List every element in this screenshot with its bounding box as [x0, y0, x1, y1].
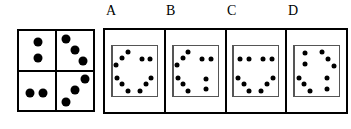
- pip-dot: [174, 62, 179, 67]
- pip-dot: [26, 88, 35, 97]
- reference-domino: [17, 29, 95, 112]
- option-b-horizontal-divider: [173, 96, 218, 97]
- option-b[interactable]: [166, 30, 227, 112]
- pip-dot: [186, 49, 191, 54]
- option-d-quadrant-top-right: [317, 46, 340, 71]
- option-label-a: A: [106, 4, 116, 18]
- pip-dot: [265, 82, 270, 87]
- option-c-quadrant-top-right: [256, 46, 279, 71]
- pip-dot: [125, 49, 130, 54]
- pip-dot: [148, 56, 153, 61]
- pip-dot: [261, 56, 266, 61]
- pip-dot: [241, 82, 246, 87]
- option-a-domino: [111, 45, 158, 97]
- pip-dot: [320, 49, 325, 54]
- pip-dot: [125, 88, 130, 93]
- option-b-quadrant-bottom-right: [195, 71, 218, 96]
- pip-dot: [238, 56, 243, 61]
- reference-quadrant-bottom-left: [19, 71, 56, 111]
- pip-dot: [33, 38, 42, 47]
- pip-dot: [269, 56, 274, 61]
- pip-dot: [331, 63, 336, 68]
- option-b-quadrant-top-left: [173, 46, 196, 71]
- option-c-quadrant-top-left: [233, 46, 256, 71]
- pip-dot: [139, 56, 144, 61]
- option-c-horizontal-divider: [233, 96, 278, 97]
- pip-dot: [175, 75, 180, 80]
- pip-dot: [120, 82, 125, 87]
- pip-dot: [302, 51, 307, 56]
- pip-dot: [325, 56, 330, 61]
- pip-dot: [149, 75, 154, 80]
- pip-dot: [143, 82, 148, 87]
- pip-dot: [114, 75, 119, 80]
- option-label-b: B: [166, 4, 175, 18]
- option-d-quadrant-bottom-left: [294, 71, 317, 96]
- reference-quadrant-top-right: [56, 31, 93, 71]
- pip-dot: [61, 34, 70, 43]
- option-d[interactable]: [287, 30, 346, 112]
- pip-dot: [204, 76, 209, 81]
- option-d-quadrant-bottom-right: [317, 71, 340, 96]
- pip-dot: [302, 61, 307, 66]
- option-c[interactable]: [227, 30, 288, 112]
- pip-dot: [39, 88, 48, 97]
- pip-dot: [33, 53, 42, 62]
- option-b-quadrant-bottom-left: [173, 71, 196, 96]
- reference-quadrant-bottom-right: [56, 71, 93, 111]
- pip-dot: [325, 76, 330, 81]
- option-c-domino: [232, 45, 279, 97]
- pip-dot: [61, 98, 70, 107]
- pip-dot: [180, 82, 185, 87]
- pip-dot: [208, 56, 213, 61]
- pip-dot: [137, 88, 142, 93]
- figure-canvas: A B C D: [0, 0, 351, 129]
- pip-dot: [259, 88, 264, 93]
- option-a-quadrant-top-left: [112, 46, 135, 71]
- pip-dot: [113, 62, 118, 67]
- option-a-quadrant-top-right: [134, 46, 157, 71]
- option-a-horizontal-divider: [112, 96, 157, 97]
- answer-options-frame: [103, 28, 348, 114]
- option-label-c: C: [227, 4, 236, 18]
- option-label-d: D: [288, 4, 298, 18]
- pip-dot: [297, 75, 302, 80]
- pip-dot: [79, 56, 88, 65]
- option-b-quadrant-top-right: [195, 46, 218, 71]
- pip-dot: [247, 88, 252, 93]
- pip-dot: [70, 45, 79, 54]
- pip-dot: [80, 75, 89, 84]
- option-a-quadrant-bottom-left: [112, 71, 135, 96]
- pip-dot: [180, 56, 185, 61]
- pip-dot: [200, 56, 205, 61]
- pip-dot: [302, 82, 307, 87]
- option-c-quadrant-bottom-right: [256, 71, 279, 96]
- option-b-domino: [172, 45, 219, 97]
- pip-dot: [246, 56, 251, 61]
- option-a[interactable]: [105, 30, 166, 112]
- option-c-quadrant-bottom-left: [233, 71, 256, 96]
- pip-dot: [71, 86, 80, 95]
- option-d-horizontal-divider: [294, 96, 339, 97]
- pip-dot: [119, 56, 124, 61]
- reference-quadrant-top-left: [19, 31, 56, 71]
- pip-dot: [204, 87, 209, 92]
- option-a-quadrant-bottom-right: [134, 71, 157, 96]
- pip-dot: [325, 86, 330, 91]
- option-d-domino: [293, 45, 340, 97]
- pip-dot: [236, 75, 241, 80]
- pip-dot: [186, 88, 191, 93]
- option-d-quadrant-top-left: [294, 46, 317, 71]
- pip-dot: [270, 75, 275, 80]
- pip-dot: [307, 88, 312, 93]
